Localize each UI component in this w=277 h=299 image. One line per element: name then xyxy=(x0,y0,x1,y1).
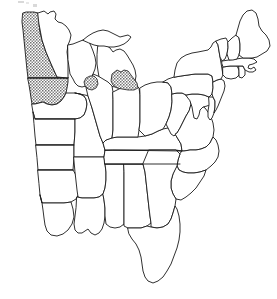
us-map-figure: Map of the eastern and central United St… xyxy=(0,0,277,299)
us-map-svg xyxy=(0,0,277,299)
state-louisiana[interactable] xyxy=(74,194,105,235)
state-delaware[interactable] xyxy=(208,97,215,120)
state-indiana[interactable] xyxy=(112,85,140,138)
state-kansas[interactable] xyxy=(36,145,74,170)
scan-artifact-mark xyxy=(18,1,24,3)
states-layer xyxy=(22,10,270,283)
state-maine[interactable] xyxy=(236,10,270,58)
state-connecticut[interactable] xyxy=(223,66,239,79)
state-new-hampshire[interactable] xyxy=(227,35,240,60)
state-arkansas[interactable] xyxy=(74,157,106,198)
scan-artifact-mark xyxy=(33,4,37,7)
state-mississippi[interactable] xyxy=(103,164,124,228)
state-oklahoma[interactable] xyxy=(38,170,80,203)
scan-artifact-mark xyxy=(26,2,29,4)
